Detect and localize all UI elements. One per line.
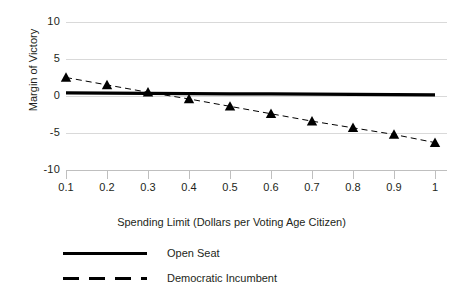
x-tick-label: 1: [415, 182, 455, 193]
legend-label: Open Seat: [167, 246, 220, 260]
data-point-marker: [102, 80, 112, 89]
x-tick-mark: [230, 170, 231, 179]
x-tick-mark: [148, 170, 149, 179]
x-tick-label: 0.7: [292, 182, 332, 193]
x-tick-label: 0.5: [210, 182, 250, 193]
x-tick-label: 0.6: [251, 182, 291, 193]
legend-item: Democratic Incumbent: [63, 268, 403, 293]
x-tick-label: 0.9: [374, 182, 414, 193]
y-tick-label: 10: [26, 16, 60, 27]
x-tick-mark: [189, 170, 190, 179]
series-layer: [66, 22, 447, 170]
y-axis-tick-labels: 1050-5-10: [20, 22, 60, 170]
x-tick-label: 0.2: [87, 182, 127, 193]
y-tick-label: 0: [26, 90, 60, 101]
legend-item: Open Seat: [63, 243, 403, 268]
y-tick-label: -5: [26, 127, 60, 138]
data-point-marker: [348, 123, 358, 132]
y-tick-label: 5: [26, 53, 60, 64]
x-axis-title: Spending Limit (Dollars per Voting Age C…: [0, 216, 463, 228]
x-tick-mark: [312, 170, 313, 179]
x-tick-mark: [394, 170, 395, 179]
x-tick-mark: [435, 170, 436, 179]
chart-legend: Open SeatDemocratic Incumbent: [63, 243, 403, 293]
x-tick-label: 0.4: [169, 182, 209, 193]
x-tick-label: 0.1: [46, 182, 86, 193]
chart-figure: Margin of Victory 1050-5-10 0.10.20.30.4…: [0, 0, 463, 296]
data-point-marker: [61, 72, 71, 81]
x-tick-label: 0.8: [333, 182, 373, 193]
x-tick-mark: [107, 170, 108, 179]
y-tick-label: -10: [26, 164, 60, 175]
x-axis-tick-labels: 0.10.20.30.40.50.60.70.80.91: [0, 182, 463, 198]
x-tick-label: 0.3: [128, 182, 168, 193]
legend-swatch-dashed: [63, 277, 147, 280]
data-point-marker: [389, 129, 399, 138]
legend-label: Democratic Incumbent: [167, 271, 277, 285]
series-line-democratic-incumbent: [66, 78, 435, 143]
x-tick-mark: [66, 170, 67, 179]
x-tick-mark: [271, 170, 272, 179]
legend-swatch-solid: [63, 252, 147, 255]
data-point-marker: [307, 116, 317, 125]
x-tick-mark: [353, 170, 354, 179]
plot-area: [66, 22, 447, 170]
series-line-open-seat: [66, 93, 435, 95]
x-axis-ticks: [66, 170, 447, 180]
